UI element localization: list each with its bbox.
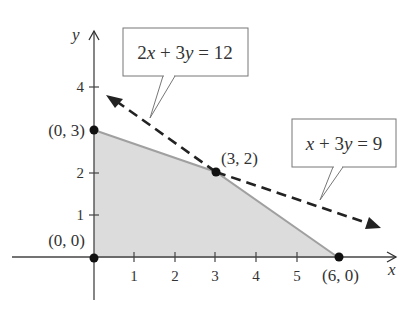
x-tick-label: 1 — [130, 268, 138, 284]
point-label-3-2: (3, 2) — [221, 149, 258, 168]
point-3-2 — [212, 168, 221, 177]
x-tick-label: 5 — [293, 268, 301, 284]
y-tick-label: 4 — [77, 79, 85, 95]
point-0-0 — [90, 254, 99, 263]
point-0-3 — [90, 126, 99, 135]
y-tick-label: 1 — [77, 207, 85, 223]
callout-2x-3y-12: 2x + 3y = 12 — [123, 28, 248, 118]
point-label-6-0: (6, 0) — [322, 266, 359, 285]
feasible-region-diagram: 1 2 3 4 5 1 2 4 x y (0, 3) (3, 2) (0, 0)… — [0, 0, 413, 319]
x-tick-label: 2 — [171, 268, 179, 284]
point-label-0-0: (0, 0) — [48, 231, 85, 250]
point-6-0 — [335, 253, 344, 262]
arrowhead-lower-right-icon — [365, 217, 381, 229]
x-tick-label: 3 — [211, 268, 219, 284]
y-axis-label: y — [70, 25, 80, 44]
callout-text: x + 3y = 9 — [305, 133, 382, 154]
y-tick-label: 2 — [77, 165, 85, 181]
x-axis-label: x — [387, 260, 396, 279]
point-label-0-3: (0, 3) — [48, 121, 85, 140]
arrowhead-upper-left-icon — [106, 95, 123, 108]
callout-x-3y-9: x + 3y = 9 — [292, 119, 396, 200]
x-tick-label: 4 — [252, 268, 260, 284]
callout-text: 2x + 3y = 12 — [137, 42, 232, 63]
